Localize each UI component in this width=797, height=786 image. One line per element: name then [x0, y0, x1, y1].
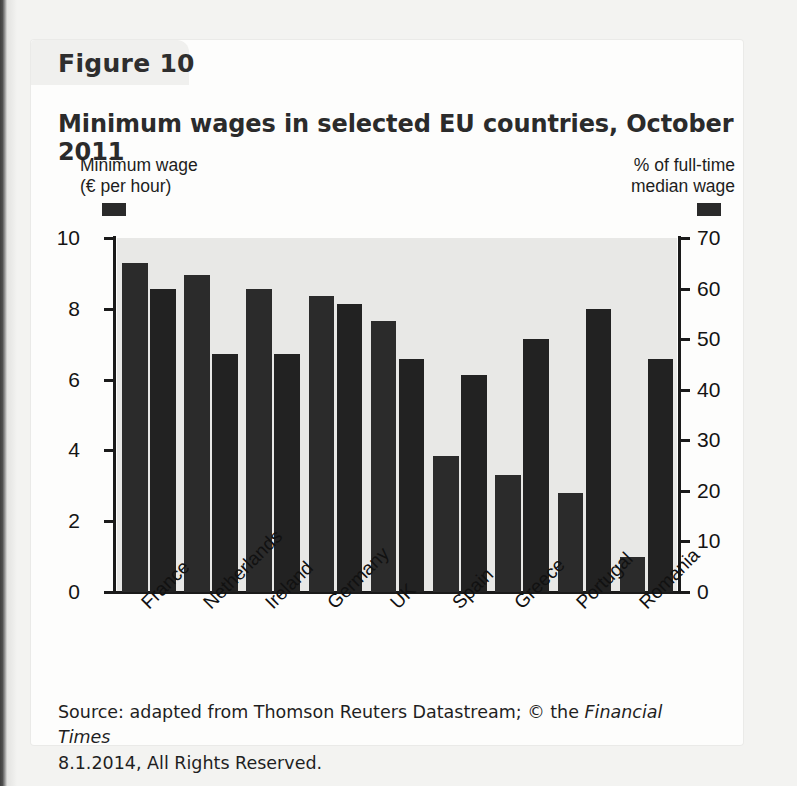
book-spine-gradient [7, 0, 17, 786]
legend-right-swatch-icon [697, 203, 721, 216]
book-spine-edge [0, 0, 7, 786]
legend-right-axis: % of full-time median wage [631, 155, 735, 216]
legend-left-swatch-icon [102, 203, 126, 216]
source-caption: Source: adapted from Thomson Reuters Dat… [58, 700, 678, 776]
caption-line2: 8.1.2014, All Rights Reserved. [58, 753, 322, 773]
legend-left-line2: (€ per hour) [80, 176, 198, 197]
caption-line1-pre: Source: adapted from Thomson Reuters Dat… [58, 702, 584, 722]
legend-right-line2: median wage [631, 176, 735, 197]
legend-left-line1: Minimum wage [80, 155, 198, 176]
legend-right-line1: % of full-time [631, 155, 735, 176]
figure-label: Figure 10 [58, 49, 195, 78]
legend-left-axis: Minimum wage (€ per hour) [80, 155, 198, 216]
